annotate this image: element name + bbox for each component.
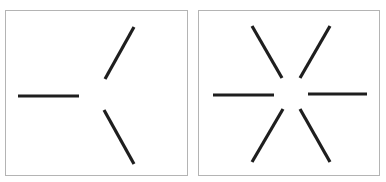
three-segment-figure-frame: [6, 11, 188, 176]
panel-right: [199, 11, 380, 176]
panel-left: [6, 11, 188, 176]
figure-canvas: [0, 0, 386, 182]
figure-stage: [0, 0, 386, 182]
